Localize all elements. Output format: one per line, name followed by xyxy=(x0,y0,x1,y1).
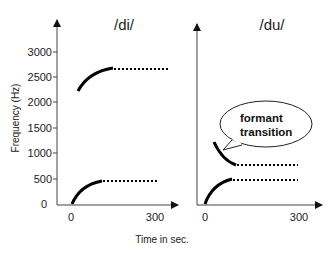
y-tick-500: 500 xyxy=(34,173,52,185)
y-axis-label: Frequency (Hz) xyxy=(10,84,21,153)
y-ticks xyxy=(53,52,57,179)
left-panel-title: /di/ xyxy=(114,16,135,33)
left-x-tick-300: 300 xyxy=(146,211,164,223)
right-x-tick-0: 0 xyxy=(202,211,208,223)
y-tick-2000: 2000 xyxy=(28,96,52,108)
callout-line-2: transition xyxy=(240,126,292,138)
right-x-tick-300: 300 xyxy=(290,211,308,223)
y-tick-1500: 1500 xyxy=(28,122,52,134)
right-f1-transition xyxy=(205,179,232,204)
left-x-tick-0: 0 xyxy=(68,211,74,223)
y-tick-0: 0 xyxy=(41,198,47,210)
callout-line-1: formant xyxy=(240,112,283,124)
right-panel-title: /du/ xyxy=(259,16,285,33)
x-axis-label: Time in sec. xyxy=(135,234,189,245)
formant-diagram: Frequency (Hz) 3000 2500 2000 1500 1000 … xyxy=(0,0,335,257)
formant-transition-callout: formant transition xyxy=(220,101,312,150)
y-tick-2500: 2500 xyxy=(28,71,52,83)
y-tick-3000: 3000 xyxy=(28,46,52,58)
left-f1-transition xyxy=(72,181,102,204)
y-tick-1000: 1000 xyxy=(28,147,52,159)
left-f2-transition xyxy=(78,68,113,91)
